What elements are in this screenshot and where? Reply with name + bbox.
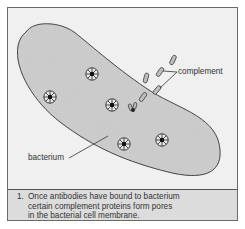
pore-3 [106, 99, 118, 111]
bacterium-label: bacterium [28, 153, 64, 162]
pore-4 [118, 138, 130, 150]
caption-line-2: certain complement proteins form pores [28, 202, 180, 212]
complement-rod-4 [152, 85, 161, 95]
pore-2 [44, 91, 56, 103]
figure-caption: 1. Once antibodies have bound to bacteri… [8, 189, 237, 220]
complement-rod-2 [155, 67, 164, 77]
caption-number: 1. [17, 192, 24, 202]
complement-leader [160, 71, 177, 88]
complement-label: complement [178, 67, 223, 76]
complement-rod-3 [143, 73, 149, 84]
pore-5 [156, 134, 168, 146]
caption-line-3: in the bacterial cell membrane. [28, 211, 180, 221]
complement-rod-1 [169, 55, 177, 66]
caption-line-1: Once antibodies have bound to bacterium [28, 192, 180, 202]
pore-1 [86, 68, 98, 80]
